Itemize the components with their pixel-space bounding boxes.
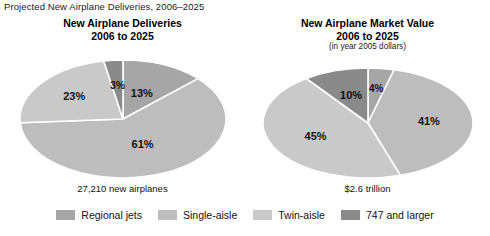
chart-title-line2: 2006 to 2025 <box>0 30 245 43</box>
chart-caption-market-value: $2.6 trillion <box>245 183 490 194</box>
legend-item-larger-747[interactable]: 747 and larger <box>341 209 434 221</box>
legend-item-twin-aisle[interactable]: Twin-aisle <box>253 209 325 221</box>
legend-label: 747 and larger <box>366 209 434 221</box>
legend-label: Twin-aisle <box>278 209 325 221</box>
chart-title-line1: New Airplane Market Value <box>301 17 434 29</box>
legend-label: Regional jets <box>81 209 142 221</box>
slice-label-twin-aisle: 23% <box>63 90 85 102</box>
pie-chart-market-value: 4% 41% 45% 10% <box>262 67 474 179</box>
slice-label-single-aisle: 41% <box>417 115 439 127</box>
chart-panel-market-value: New Airplane Market Value 2006 to 2025 (… <box>245 17 490 207</box>
legend-swatch-icon <box>56 210 75 220</box>
chart-title-deliveries: New Airplane Deliveries 2006 to 2025 <box>0 17 245 42</box>
chart-title-line1: New Airplane Deliveries <box>63 17 182 29</box>
chart-title-line2: 2006 to 2025 <box>245 30 490 43</box>
slice-label-twin-aisle: 45% <box>304 130 326 142</box>
slice-label-regional-jets: 13% <box>130 87 152 99</box>
legend-item-regional-jets[interactable]: Regional jets <box>56 209 142 221</box>
legend-swatch-icon <box>158 210 177 220</box>
page-title: Projected New Airplane Deliveries, 2006–… <box>4 1 204 12</box>
pie-svg-market-value: 4% 41% 45% 10% <box>262 67 474 179</box>
chart-subtitle-market-value: (in year 2005 dollars) <box>245 42 490 52</box>
pie-chart-deliveries: 13% 61% 23% 3% <box>19 59 227 179</box>
slice-label-747-and-larger: 3% <box>110 80 125 91</box>
slice-label-single-aisle: 61% <box>131 138 153 150</box>
pie-svg-deliveries: 13% 61% 23% 3% <box>19 59 227 179</box>
legend-item-single-aisle[interactable]: Single-aisle <box>158 209 237 221</box>
legend: Regional jetsSingle-aisleTwin-aisle747 a… <box>0 209 490 221</box>
legend-swatch-icon <box>341 210 360 220</box>
chart-caption-deliveries: 27,210 new airplanes <box>0 183 245 194</box>
legend-label: Single-aisle <box>183 209 237 221</box>
slice-label-747-and-larger: 10% <box>340 89 362 101</box>
chart-panel-deliveries: New Airplane Deliveries 2006 to 2025 13%… <box>0 17 245 207</box>
legend-swatch-icon <box>253 210 272 220</box>
chart-title-market-value: New Airplane Market Value 2006 to 2025 <box>245 17 490 42</box>
slice-label-regional-jets: 4% <box>368 83 383 94</box>
